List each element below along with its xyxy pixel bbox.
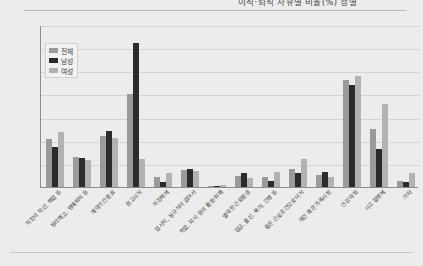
bar-group <box>149 25 176 187</box>
x-axis-tick-labels: 직장의 파산, 폐업 등정리해고, 명예퇴직 등계약기간 종료권고사직직장폐쇄임… <box>40 189 418 249</box>
page-title: 이직·퇴직 사유별 비율(%) 성별 <box>238 0 357 7</box>
legend-label: 여성 <box>61 66 73 76</box>
legend-swatch <box>49 58 58 63</box>
legend-swatch <box>49 48 58 53</box>
legend-label: 남성 <box>61 56 73 66</box>
chart-legend: 전체남성여성 <box>45 43 78 78</box>
legend-item: 남성 <box>49 56 73 65</box>
x-axis-tick-label: 직장폐쇄 <box>151 188 171 208</box>
bar <box>382 104 388 187</box>
legend-item: 전체 <box>49 46 73 55</box>
bar-group <box>122 25 149 187</box>
x-axis-tick-label: 사고 질병에 <box>362 188 387 213</box>
x-axis-tick-label: 기타 <box>401 188 414 201</box>
x-axis-tick-label: 권고사직 <box>124 188 144 208</box>
chart-page: 이직·퇴직 사유별 비율(%) 성별 35302520151050 전체남성여성… <box>0 0 423 266</box>
title-divider <box>24 10 406 11</box>
bar-group <box>392 25 419 187</box>
bar-group <box>257 25 284 187</box>
bar <box>58 132 64 187</box>
bar-group <box>176 25 203 187</box>
legend-label: 전체 <box>61 46 73 56</box>
legend-swatch <box>49 68 58 73</box>
x-axis-tick-label: 건강 악화 <box>338 188 359 209</box>
chart-title-strip: 이직·퇴직 사유별 비율(%) 성별 <box>0 0 423 9</box>
bar-group <box>365 25 392 187</box>
footer-divider <box>10 252 413 253</box>
legend-item: 여성 <box>49 66 73 75</box>
